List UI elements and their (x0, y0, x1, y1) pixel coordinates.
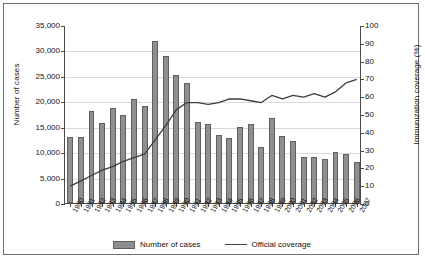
bar (99, 123, 105, 203)
bar (152, 41, 158, 203)
bar (237, 127, 243, 203)
y-axis-right-tickmark (360, 44, 364, 45)
y-axis-right-tickmark (360, 97, 364, 98)
bar (290, 141, 296, 203)
y-axis-right-tickmark (360, 79, 364, 80)
y-axis-left-title: Number of cases (12, 35, 21, 155)
y-axis-right-tickmark (360, 133, 364, 134)
legend-label-cases: Number of cases (140, 240, 200, 249)
y-axis-left-tickmark (61, 153, 65, 154)
y-axis-left-tickmark (61, 179, 65, 180)
y-axis-left-tickmark (61, 26, 65, 27)
chart-figure: Number of cases Immunization coverage (%… (0, 0, 425, 260)
bar (248, 124, 254, 203)
gridline (65, 77, 360, 78)
plot-area: 05,00010,00015,00020,00025,00030,00035,0… (64, 26, 361, 204)
bar (131, 99, 137, 203)
bar (184, 83, 190, 203)
bar (205, 124, 211, 203)
bar (163, 56, 169, 203)
bar (173, 75, 179, 203)
y-axis-right-tickmark (360, 186, 364, 187)
y-axis-left-tickmark (61, 51, 65, 52)
legend-label-coverage: Official coverage (252, 240, 311, 249)
bar (110, 108, 116, 203)
y-axis-left-tickmark (61, 204, 65, 205)
bar (258, 147, 264, 203)
y-axis-right-tickmark (360, 26, 364, 27)
bar (120, 115, 126, 203)
bar (279, 136, 285, 203)
bar (269, 118, 275, 203)
y-axis-right-title: Immunization coverage (%) (412, 35, 421, 155)
y-axis-left-tickmark (61, 102, 65, 103)
bar (216, 135, 222, 203)
legend-item-coverage: Official coverage (225, 240, 311, 249)
gridline (65, 51, 360, 52)
y-axis-right-tickmark (360, 115, 364, 116)
bar-swatch-icon (113, 241, 135, 249)
bar (142, 106, 148, 203)
y-axis-left-tickmark (61, 128, 65, 129)
x-axis-tickmark (70, 203, 71, 207)
bar (89, 111, 95, 203)
bar (67, 137, 73, 203)
y-axis-left-tickmark (61, 77, 65, 78)
y-axis-right-tickmark (360, 168, 364, 169)
bar (226, 138, 232, 203)
y-axis-right-tickmark (360, 62, 364, 63)
bar (78, 137, 84, 203)
chart-frame: Number of cases Immunization coverage (%… (3, 3, 419, 255)
legend-item-cases: Number of cases (113, 240, 200, 249)
chart-legend: Number of cases Official coverage (4, 240, 420, 249)
gridline (65, 102, 360, 103)
line-swatch-icon (225, 244, 247, 245)
bar (195, 122, 201, 203)
y-axis-right-tickmark (360, 151, 364, 152)
